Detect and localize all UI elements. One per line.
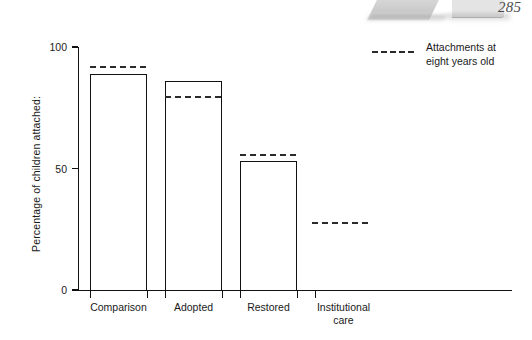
x-tick-2-1 <box>297 291 298 298</box>
y-tick-100 <box>72 46 78 47</box>
legend-dashed-line-swatch <box>372 51 414 53</box>
y-tick-label-100: 100 <box>21 41 67 53</box>
bar-restored <box>240 161 297 290</box>
x-label-comparison: Comparison <box>76 301 161 314</box>
bar-adopted <box>165 81 222 290</box>
bar-comparison <box>90 74 147 290</box>
x-label-restored: Restored <box>226 301 311 314</box>
x-tick-1-1 <box>222 291 223 298</box>
y-tick-label-0: 0 <box>21 284 67 296</box>
x-axis-line <box>78 290 512 291</box>
legend-label: Attachments at eight years old <box>426 40 496 68</box>
y-tick-label-50: 50 <box>21 163 67 175</box>
dash-marker-restored <box>240 154 296 156</box>
y-tick-50 <box>72 168 78 169</box>
x-label-institutional-care: Institutional care <box>301 301 386 327</box>
x-tick-0-1 <box>147 291 148 298</box>
dash-marker-institutional-care <box>312 222 368 224</box>
x-tick-1-0 <box>165 291 166 298</box>
x-tick-2-0 <box>240 291 241 298</box>
dash-marker-adopted <box>165 96 221 98</box>
dash-marker-comparison <box>90 66 146 68</box>
figure: 285 Percentage of children attached: 050… <box>0 0 532 340</box>
x-tick-3-0 <box>315 291 316 298</box>
x-tick-0-0 <box>90 291 91 298</box>
x-label-adopted: Adopted <box>151 301 236 314</box>
y-axis-line <box>78 47 79 291</box>
y-tick-0 <box>72 289 78 290</box>
